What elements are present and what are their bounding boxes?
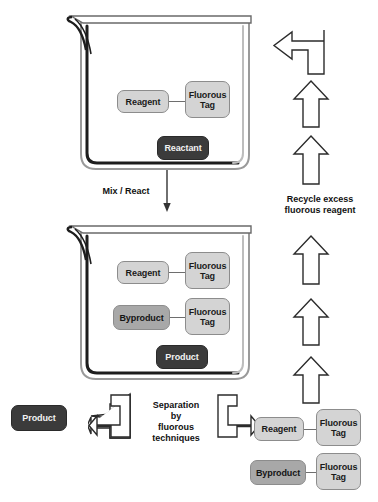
recycle-turn-left-arrow bbox=[270, 26, 330, 76]
box-fluorous-tag-bottom-2[interactable]: Fluorous Tag bbox=[185, 298, 230, 335]
box-fluorous-tag-bottom-1[interactable]: Fluorous Tag bbox=[185, 252, 230, 289]
box-reagent-top[interactable]: Reagent bbox=[117, 90, 169, 113]
box-reagent-bottom[interactable]: Reagent bbox=[117, 261, 169, 284]
recycle-up-arrow-4 bbox=[292, 134, 330, 186]
box-reagent-output[interactable]: Reagent bbox=[254, 417, 304, 441]
separation-left-arrow bbox=[88, 392, 134, 442]
box-fluorous-tag-top[interactable]: Fluorous Tag bbox=[185, 81, 230, 118]
recycle-up-arrow-2 bbox=[292, 297, 330, 347]
box-fluorous-tag-output-1[interactable]: Fluorous Tag bbox=[316, 409, 361, 446]
recycle-label: Recycle excess fluorous reagent bbox=[262, 194, 378, 216]
separation-label: Separation by fluorous techniques bbox=[134, 400, 218, 444]
box-byproduct-bottom[interactable]: Byproduct bbox=[113, 305, 170, 330]
mix-react-arrow bbox=[160, 170, 174, 212]
recycle-up-arrow-3 bbox=[292, 234, 330, 286]
box-product-output[interactable]: Product bbox=[11, 405, 67, 431]
recycle-up-arrow-5 bbox=[292, 79, 330, 129]
box-product-bottom[interactable]: Product bbox=[156, 345, 208, 369]
diagram-canvas: Reagent Fluorous Tag Reactant Mix / Reac… bbox=[0, 0, 378, 502]
output-reagent-connector bbox=[303, 429, 317, 430]
mix-react-label: Mix / React bbox=[86, 186, 166, 197]
box-byproduct-output[interactable]: Byproduct bbox=[250, 460, 306, 485]
box-reactant-top[interactable]: Reactant bbox=[157, 136, 209, 160]
box-fluorous-tag-output-2[interactable]: Fluorous Tag bbox=[316, 453, 361, 490]
recycle-up-arrow-1 bbox=[292, 355, 330, 405]
